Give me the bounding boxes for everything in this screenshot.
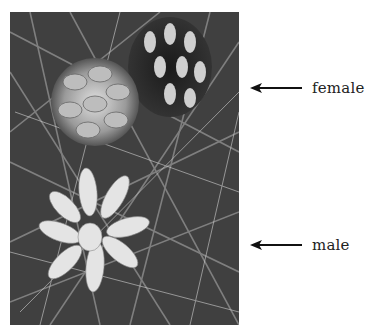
male-label-row: male	[250, 235, 350, 255]
arrow-left-icon	[250, 82, 302, 94]
arrow-left-icon	[250, 239, 302, 251]
female-label-row: female	[250, 78, 364, 98]
female-label: female	[312, 79, 364, 97]
male-label: male	[312, 236, 350, 254]
pine-cone-photo	[10, 12, 239, 325]
